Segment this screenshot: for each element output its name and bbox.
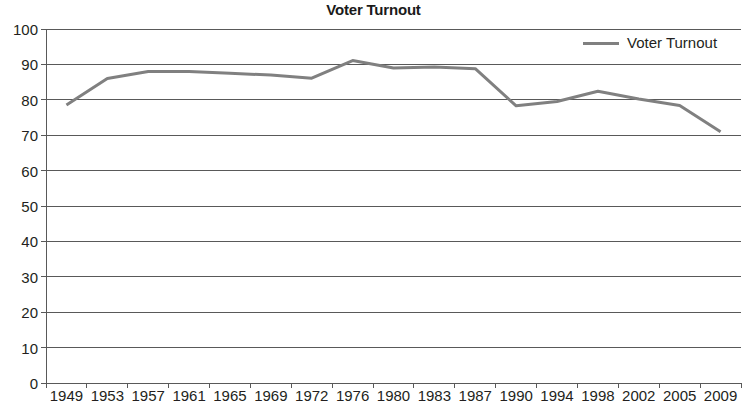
x-axis-tick-label: 1990	[499, 387, 532, 405]
x-axis-tick-label: 1953	[91, 387, 124, 405]
x-axis-tick-label: 2002	[622, 387, 655, 405]
y-axis-tick-label: 40	[0, 234, 38, 249]
chart-legend: Voter Turnout	[583, 35, 717, 51]
x-axis: 1949195319571961196519691972197619801983…	[46, 387, 741, 409]
y-axis-tick-label: 20	[0, 305, 38, 320]
x-axis-tick-label: 2009	[704, 387, 737, 405]
legend-line-swatch	[583, 42, 619, 45]
y-axis-tick-label: 70	[0, 128, 38, 143]
series-voter-turnout	[46, 29, 741, 383]
x-axis-tick-label: 1994	[540, 387, 573, 405]
x-axis-tick-label: 2005	[663, 387, 696, 405]
voter-turnout-chart: Voter Turnout 1009080706050403020100 194…	[0, 0, 747, 409]
x-axis-tick-label: 1957	[132, 387, 165, 405]
y-axis-tick-label: 60	[0, 164, 38, 179]
y-axis-tick-label: 50	[0, 199, 38, 214]
x-axis-tick-label: 1976	[336, 387, 369, 405]
x-axis-tick-label: 1972	[295, 387, 328, 405]
x-axis-tick-label: 1987	[459, 387, 492, 405]
y-axis-tick-label: 0	[0, 376, 38, 391]
x-axis-tick-label: 1998	[581, 387, 614, 405]
x-axis-tick-label: 1965	[213, 387, 246, 405]
x-axis-tick-label: 1949	[50, 387, 83, 405]
series-line	[66, 61, 720, 132]
y-axis-tick-label: 90	[0, 57, 38, 72]
plot-area	[46, 29, 741, 383]
x-axis-tick-label: 1961	[172, 387, 205, 405]
x-axis-tick-label: 1980	[377, 387, 410, 405]
y-axis-tick-label: 100	[0, 22, 38, 37]
y-axis-tick-label: 80	[0, 93, 38, 108]
x-axis-tick-label: 1983	[418, 387, 451, 405]
x-axis-tick-label: 1969	[254, 387, 287, 405]
y-axis: 1009080706050403020100	[0, 0, 40, 409]
chart-title: Voter Turnout	[0, 0, 747, 20]
y-axis-tick-label: 30	[0, 270, 38, 285]
y-axis-tick-label: 10	[0, 341, 38, 356]
legend-entry-label: Voter Turnout	[627, 35, 717, 51]
